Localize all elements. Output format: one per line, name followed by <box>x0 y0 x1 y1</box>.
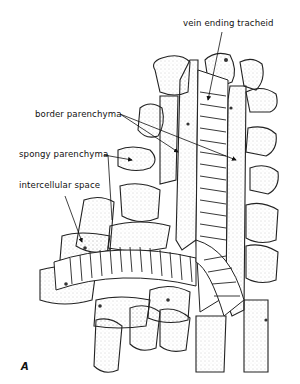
leaf-vein-ending-diagram: vein ending tracheid border parenchyma s… <box>0 0 300 384</box>
label-vein-ending-tracheid: vein ending tracheid <box>183 18 274 28</box>
label-spongy-parenchyma: spongy parenchyma <box>19 149 108 159</box>
label-intercellular-space: intercellular space <box>19 180 100 190</box>
cell-illustration <box>0 0 300 384</box>
label-border-parenchyma: border parenchyma <box>35 109 122 119</box>
panel-label: A <box>21 361 29 372</box>
